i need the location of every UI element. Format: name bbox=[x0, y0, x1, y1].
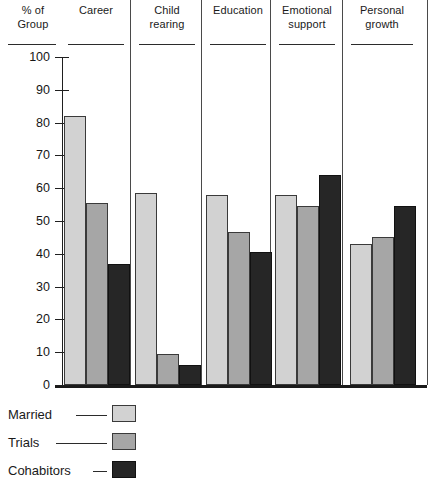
bar-emotional-support-trials bbox=[297, 206, 319, 385]
y-axis-tick-label: 30 bbox=[10, 281, 50, 294]
category-header-line: Education bbox=[213, 4, 263, 16]
category-header-underline bbox=[210, 44, 266, 45]
legend-leader-line bbox=[76, 415, 107, 416]
category-header-line: Personal bbox=[360, 4, 404, 16]
category-header-emotional-support: Emotionalsupport bbox=[273, 4, 341, 31]
bar-personal-growth-married bbox=[350, 244, 372, 385]
legend-swatch bbox=[112, 433, 136, 450]
legend-swatch bbox=[112, 405, 136, 422]
y-axis-tick-label: 10 bbox=[10, 346, 50, 359]
bar-education-cohabitors bbox=[250, 252, 272, 385]
y-axis-tick-label: 20 bbox=[10, 313, 50, 326]
bar-child-rearing-cohabitors bbox=[179, 365, 201, 385]
bar-chart: % ofGroupCareerChildrearingEducationEmot… bbox=[0, 0, 434, 491]
y-axis-tick-label: 70 bbox=[10, 149, 50, 162]
y-axis-title-line1: % of bbox=[22, 4, 44, 16]
legend-label: Trials bbox=[8, 435, 39, 450]
bar-personal-growth-cohabitors bbox=[394, 206, 416, 385]
plot-area: 1009080706050403020100 bbox=[0, 57, 434, 385]
bar-emotional-support-cohabitors bbox=[319, 175, 341, 385]
category-header-band: % ofGroupCareerChildrearingEducationEmot… bbox=[0, 0, 434, 57]
y-axis-tick-label: 50 bbox=[10, 215, 50, 228]
legend-leader-line bbox=[93, 471, 107, 472]
y-axis-title-underline bbox=[8, 44, 56, 45]
y-axis-tick-label: 100 bbox=[10, 51, 50, 64]
legend-leader-line bbox=[56, 443, 107, 444]
category-header-underline bbox=[279, 44, 335, 45]
y-axis-tick-label: 80 bbox=[10, 117, 50, 130]
bar-child-rearing-trials bbox=[157, 354, 179, 385]
y-axis-title-line2: Group bbox=[5, 18, 61, 32]
y-axis-tick bbox=[55, 385, 69, 386]
legend-label: Cohabitors bbox=[8, 463, 71, 478]
y-axis-tick-label: 40 bbox=[10, 248, 50, 261]
category-separator bbox=[427, 0, 428, 385]
category-header-line: support bbox=[273, 18, 341, 32]
y-axis-tick-label: 0 bbox=[10, 379, 50, 392]
legend-swatch bbox=[112, 461, 136, 478]
category-separator bbox=[201, 0, 202, 385]
legend-item-trials: Trials bbox=[8, 432, 208, 458]
category-header-underline bbox=[68, 44, 124, 45]
x-axis-baseline bbox=[55, 385, 427, 388]
category-header-child-rearing: Childrearing bbox=[133, 4, 201, 31]
category-header-personal-growth: Personalgrowth bbox=[345, 4, 419, 31]
category-header-line: growth bbox=[345, 18, 419, 32]
bar-career-married bbox=[64, 116, 86, 385]
category-separator bbox=[342, 0, 343, 385]
bar-emotional-support-married bbox=[275, 195, 297, 385]
y-axis-title: % ofGroup bbox=[5, 4, 61, 31]
bar-education-married bbox=[206, 195, 228, 385]
category-header-career: Career bbox=[62, 4, 130, 18]
category-header-line: Career bbox=[79, 4, 113, 16]
legend-item-cohabitors: Cohabitors bbox=[8, 460, 208, 486]
category-header-line: Emotional bbox=[282, 4, 332, 16]
bar-career-trials bbox=[86, 203, 108, 385]
legend-item-married: Married bbox=[8, 404, 208, 430]
bar-education-trials bbox=[228, 232, 250, 385]
y-axis-tick-label: 60 bbox=[10, 182, 50, 195]
category-header-underline bbox=[351, 44, 413, 45]
bar-career-cohabitors bbox=[108, 264, 130, 385]
category-header-line: rearing bbox=[133, 18, 201, 32]
y-axis-tick bbox=[55, 57, 69, 58]
legend-label: Married bbox=[8, 407, 52, 422]
category-separator bbox=[130, 0, 131, 385]
category-header-underline bbox=[139, 44, 195, 45]
category-header-education: Education bbox=[204, 4, 272, 18]
chart-legend: MarriedTrialsCohabitors bbox=[0, 404, 434, 491]
category-header-line: Child bbox=[154, 4, 180, 16]
bar-personal-growth-trials bbox=[372, 237, 394, 385]
bar-child-rearing-married bbox=[135, 193, 157, 385]
y-axis-tick bbox=[55, 90, 69, 91]
y-axis-tick-label: 90 bbox=[10, 84, 50, 97]
